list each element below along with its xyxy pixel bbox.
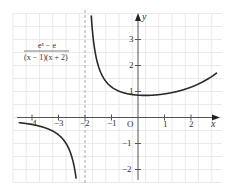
y-tick-label: 2 [129, 60, 134, 70]
x-axis-label: x [210, 118, 216, 129]
y-axis-arrow-icon [135, 13, 141, 21]
origin-label: O [127, 119, 134, 129]
x-tick-label: 1 [163, 119, 168, 129]
axes [17, 13, 220, 180]
formula-denominator: (x − 1)(x + 2) [24, 53, 68, 62]
curve-left-branch [19, 123, 76, 179]
y-tick-label: 1 [129, 86, 134, 96]
x-tick-label: −2 [80, 118, 90, 128]
x-tick-label: −4 [27, 118, 37, 128]
y-axis-label: y [141, 11, 147, 22]
formula-label: eˣ − e (x − 1)(x + 2) [24, 41, 69, 62]
grid [13, 13, 222, 183]
x-tick-label: −1 [107, 118, 117, 128]
formula-numerator: eˣ − e [38, 41, 56, 50]
x-tick-label: −3 [54, 118, 64, 128]
y-tick-label: −1 [122, 138, 132, 148]
y-tick-label: −2 [122, 164, 132, 174]
y-tick-label: 3 [129, 34, 134, 44]
function-graph: x y O −4 −3 −2 −1 1 2 3 2 1 −1 −2 eˣ − e… [0, 0, 229, 193]
x-tick-label: 2 [189, 119, 194, 129]
